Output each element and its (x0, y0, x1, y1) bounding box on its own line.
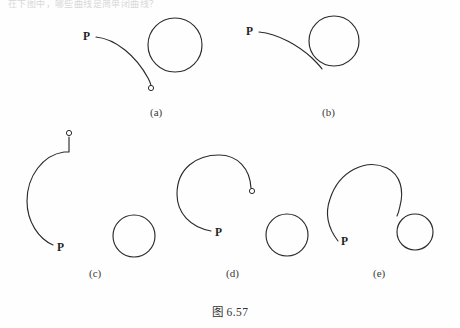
figure-c-group (27, 130, 155, 257)
figure-d-endpoint-marker-icon (249, 188, 254, 193)
figure-d-circle (266, 214, 308, 256)
figure-d-point-label-p: P (215, 227, 222, 239)
figure-e-curve (328, 165, 402, 241)
figure-d-curve (177, 155, 251, 231)
figure-c-point-label-p: P (57, 242, 64, 254)
figure-sublabel-a: (a) (150, 107, 162, 118)
figure-a-group (96, 18, 202, 91)
figure-c-circle (113, 215, 155, 257)
figure-sublabel-c: (c) (89, 268, 101, 279)
figure-caption: 图 6.57 (0, 303, 460, 319)
figure-page: 在下图中，哪些曲线是简单闭曲线？ (0, 0, 460, 328)
figure-e-point-label-p: P (341, 236, 348, 248)
figure-sublabel-d: (d) (226, 268, 239, 279)
figure-d-group (177, 155, 308, 256)
figure-a-curve (96, 37, 151, 86)
figure-sublabel-e: (e) (373, 268, 385, 279)
figure-b-curve (259, 32, 322, 69)
figure-a-circle (148, 18, 202, 72)
figure-c-curve (27, 137, 69, 245)
figure-e-circle (397, 214, 433, 250)
figure-sublabel-b: (b) (322, 107, 335, 118)
figure-a-endpoint-marker-icon (148, 85, 153, 90)
figure-b-point-label-p: P (246, 26, 253, 38)
figure-c-endpoint-marker-icon (66, 130, 71, 135)
figure-a-point-label-p: P (83, 31, 90, 43)
figure-b-circle (309, 16, 359, 66)
figure-b-group (259, 16, 359, 69)
